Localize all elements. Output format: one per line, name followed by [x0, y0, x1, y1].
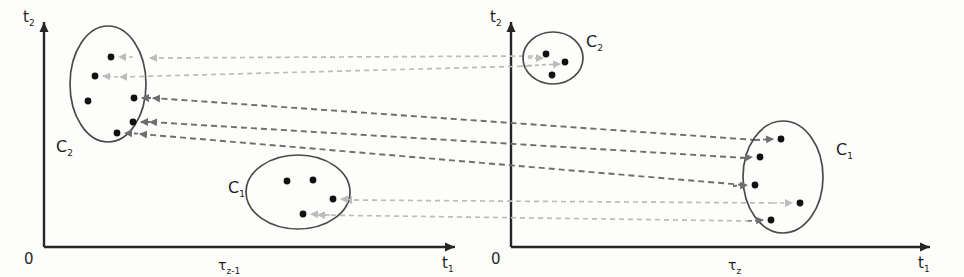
left-y-axis-label: t2 — [23, 8, 35, 28]
transition-arrows — [120, 56, 773, 221]
data-point — [114, 130, 121, 137]
right-x-axis-label: t1 — [918, 254, 930, 274]
data-point — [131, 95, 138, 102]
arrow-into-left-c2-b — [103, 76, 118, 77]
right-cluster-label-c2: C2 — [586, 32, 603, 53]
arrow-into-left-c2-e — [125, 133, 145, 134]
figure-canvas: t2 0 t1 τz-1 C2 C1 t2 0 t1 τz C2 C1 — [0, 0, 964, 277]
data-point — [549, 72, 556, 79]
arrow-c1-to-c2-a — [153, 98, 756, 140]
data-point — [300, 211, 307, 218]
data-point — [768, 217, 775, 224]
data-point — [130, 119, 137, 126]
right-c1-inbound-arrowheads — [733, 139, 792, 221]
data-point — [310, 177, 317, 184]
arrow-c1-to-c2-b — [150, 122, 746, 158]
right-cluster-c1 — [743, 121, 823, 233]
data-point — [752, 182, 759, 189]
left-cluster-c2 — [70, 26, 146, 142]
data-point — [85, 98, 92, 105]
cluster-outline-c1-left — [246, 155, 350, 229]
data-point — [543, 51, 550, 58]
data-point — [757, 154, 764, 161]
right-x-tick-label: τz — [728, 257, 741, 276]
arrow-into-right-c1-e — [748, 220, 763, 221]
arrow-into-left-c1-a — [341, 199, 358, 200]
left-panel-axes — [44, 22, 455, 247]
arrow-c2-to-c2-a — [150, 56, 533, 58]
arrow-into-right-c1-a — [756, 139, 773, 140]
right-panel-axes — [511, 22, 930, 247]
right-cluster-label-c1: C1 — [836, 140, 853, 161]
data-point — [778, 136, 785, 143]
cluster-evolution-diagram: t2 0 t1 τz-1 C2 C1 t2 0 t1 τz C2 C1 — [0, 0, 964, 277]
left-cluster-label-c1: C1 — [228, 178, 245, 199]
left-x-axis-label: t1 — [442, 254, 454, 274]
data-point — [330, 196, 337, 203]
data-point — [92, 73, 99, 80]
right-y-axis-label: t2 — [490, 8, 502, 28]
right-origin-label: 0 — [491, 250, 501, 268]
arrow-into-left-c1-b — [311, 214, 330, 215]
arrow-into-right-c1-c — [733, 185, 747, 186]
left-cluster-label-c2: C2 — [56, 137, 73, 158]
arrow-c1-to-c1-b — [318, 215, 750, 221]
arrow-c1-to-c1-a — [345, 200, 773, 203]
arrow-c2-to-c2-b — [120, 66, 531, 77]
left-origin-label: 0 — [24, 250, 34, 268]
data-point — [562, 59, 569, 66]
data-point — [284, 178, 291, 185]
left-x-tick-label: τz-1 — [218, 257, 240, 276]
data-point — [108, 54, 115, 61]
data-point — [797, 200, 804, 207]
left-cluster-c1 — [246, 155, 350, 229]
